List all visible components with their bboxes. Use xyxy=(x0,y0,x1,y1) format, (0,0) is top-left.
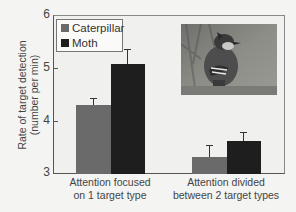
error-bar-cap xyxy=(206,145,213,146)
error-bar-cap xyxy=(124,49,131,50)
x-label-divided-line2: between 2 target types xyxy=(166,189,286,202)
bird-image-icon xyxy=(181,24,277,95)
y-axis-label-line2: (number per min) xyxy=(28,25,40,165)
y-tick-3: 3 xyxy=(36,165,50,179)
y-axis-label-line1: Rate of target detection xyxy=(16,25,28,165)
error-bar-cap xyxy=(240,132,247,133)
error-bar xyxy=(209,145,210,157)
x-label-divided-line1: Attention divided xyxy=(166,176,286,189)
y-axis-label: Rate of target detection (number per min… xyxy=(16,25,40,165)
error-bar xyxy=(243,132,244,141)
blue-jay-photo xyxy=(181,24,277,95)
y-tick-mark xyxy=(53,121,58,122)
bar-caterpillar-divided xyxy=(192,157,227,174)
legend-item-caterpillar: Caterpillar xyxy=(61,22,124,34)
bar-moth-focused xyxy=(111,64,146,174)
bar-caterpillar-focused xyxy=(76,105,111,174)
legend-swatch-moth xyxy=(61,39,69,47)
error-bar xyxy=(127,49,128,65)
legend: Caterpillar Moth xyxy=(56,19,123,52)
x-label-focused-line2: on 1 target type xyxy=(55,189,165,202)
legend-item-moth: Moth xyxy=(61,37,98,49)
x-label-focused-line1: Attention focused xyxy=(55,176,165,189)
legend-swatch-caterpillar xyxy=(61,24,69,32)
y-tick-6: 6 xyxy=(36,7,50,21)
y-tick-mark xyxy=(53,68,58,69)
error-bar-cap xyxy=(90,98,97,99)
x-label-divided: Attention divided between 2 target types xyxy=(166,176,286,202)
bar-moth-divided xyxy=(227,141,262,174)
legend-label-caterpillar: Caterpillar xyxy=(72,22,124,34)
x-label-focused: Attention focused on 1 target type xyxy=(55,176,165,202)
legend-label-moth: Moth xyxy=(72,37,98,49)
